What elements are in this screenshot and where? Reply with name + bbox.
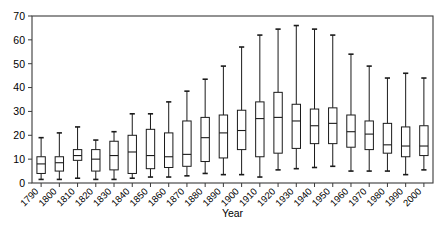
box-iqr xyxy=(237,110,245,149)
x-tick-label: 1860 xyxy=(145,186,168,209)
box-iqr xyxy=(128,135,136,173)
box-iqr xyxy=(347,115,355,147)
box-iqr xyxy=(146,129,154,168)
x-tick-label: 1990 xyxy=(382,186,405,209)
box-plot-group xyxy=(92,140,100,179)
y-tick-label: 40 xyxy=(13,81,25,93)
box-iqr xyxy=(73,150,81,161)
box-plot-group xyxy=(110,132,118,180)
box-plot-group xyxy=(292,26,300,169)
box-iqr xyxy=(310,109,318,144)
x-tick-label: 1870 xyxy=(164,186,187,209)
box-iqr xyxy=(201,117,209,161)
x-axis-title: Year xyxy=(222,207,244,219)
x-tick-label: 1960 xyxy=(328,186,351,209)
x-tick-label: 1820 xyxy=(72,186,95,209)
x-tick-label: 1950 xyxy=(309,186,332,209)
box-iqr xyxy=(274,92,282,153)
box-plot-group xyxy=(401,73,409,174)
x-tick-label: 1980 xyxy=(364,186,387,209)
box-plot-group xyxy=(183,91,191,176)
box-plot-group xyxy=(420,78,428,170)
x-tick-label: 1810 xyxy=(54,186,77,209)
box-plot-group xyxy=(219,66,227,175)
x-tick-label: 1940 xyxy=(291,186,314,209)
box-iqr xyxy=(329,108,337,144)
box-plot-group xyxy=(146,114,154,177)
box-iqr xyxy=(92,150,100,171)
x-tick-label: 1890 xyxy=(200,186,223,209)
x-tick-label: 1840 xyxy=(109,186,132,209)
box-iqr xyxy=(365,121,373,150)
x-tick-label: 1970 xyxy=(346,186,369,209)
box-plot-chart: 0102030405060701790180018101820183018401… xyxy=(0,0,439,235)
box-iqr xyxy=(292,104,300,148)
box-plot-group xyxy=(365,66,373,171)
box-plot-group xyxy=(165,102,173,177)
box-iqr xyxy=(183,121,191,166)
chart-canvas: 0102030405060701790180018101820183018401… xyxy=(0,0,439,235)
x-tick-label: 2000 xyxy=(401,186,424,209)
box-plot-group xyxy=(201,79,209,173)
box-iqr xyxy=(256,102,264,157)
box-plot-group xyxy=(329,35,337,166)
x-tick-label: 1790 xyxy=(18,186,41,209)
box-plot-group xyxy=(55,133,63,180)
box-iqr xyxy=(219,115,227,158)
box-iqr xyxy=(420,126,428,156)
box-plot-group xyxy=(274,29,282,170)
x-tick-label: 1920 xyxy=(255,186,278,209)
y-tick-label: 30 xyxy=(13,105,25,117)
x-tick-label: 1850 xyxy=(127,186,150,209)
x-tick-label: 1880 xyxy=(182,186,205,209)
box-plot-group xyxy=(347,54,355,171)
box-plot-group xyxy=(128,114,136,178)
y-tick-label: 0 xyxy=(19,177,25,189)
x-tick-label: 1910 xyxy=(237,186,260,209)
box-plot-group xyxy=(37,138,45,180)
box-plot-group xyxy=(310,29,318,167)
box-iqr xyxy=(165,133,173,168)
x-tick-label: 1930 xyxy=(273,186,296,209)
x-tick-label: 1830 xyxy=(91,186,114,209)
y-tick-label: 10 xyxy=(13,153,25,165)
x-tick-label: 1900 xyxy=(218,186,241,209)
box-iqr xyxy=(37,157,45,174)
box-plot-group xyxy=(256,35,264,177)
y-tick-label: 20 xyxy=(13,129,25,141)
box-iqr xyxy=(55,157,63,171)
x-tick-label: 1800 xyxy=(36,186,59,209)
y-tick-label: 70 xyxy=(13,10,25,22)
y-tick-label: 60 xyxy=(13,34,25,46)
box-iqr xyxy=(401,127,409,157)
box-plot-group xyxy=(383,78,391,171)
box-plot-group xyxy=(237,47,245,175)
box-iqr xyxy=(383,123,391,153)
y-tick-label: 50 xyxy=(13,58,25,70)
box-plot-group xyxy=(73,127,81,178)
